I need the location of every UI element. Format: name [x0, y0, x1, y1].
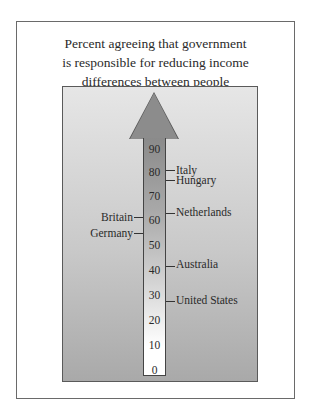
chart-title: Percent agreeing that government is resp… — [16, 34, 295, 91]
tick-0: 0 — [143, 364, 166, 376]
tick-60: 60 — [143, 214, 166, 226]
title-line-2: is responsible for reducing income — [16, 53, 295, 72]
marker-britain — [134, 217, 143, 218]
tick-90: 90 — [143, 143, 166, 155]
tick-80: 80 — [143, 166, 166, 178]
arrow-up-icon — [130, 93, 178, 139]
label-netherlands: Netherlands — [176, 206, 232, 218]
tick-40: 40 — [143, 264, 166, 276]
label-united-states: United States — [176, 294, 238, 306]
tick-30: 30 — [143, 289, 166, 301]
label-australia: Australia — [176, 258, 218, 270]
marker-united-states — [166, 301, 175, 302]
label-germany: Germany — [90, 227, 133, 239]
marker-italy — [166, 170, 175, 171]
tick-70: 70 — [143, 190, 166, 202]
label-britain: Britain — [101, 211, 133, 223]
marker-netherlands — [166, 213, 175, 214]
tick-50: 50 — [143, 239, 166, 251]
label-hungary: Hungary — [176, 174, 216, 186]
tick-10: 10 — [143, 339, 166, 351]
marker-hungary — [166, 180, 175, 181]
marker-germany — [134, 233, 143, 234]
marker-australia — [166, 266, 175, 267]
tick-20: 20 — [143, 314, 166, 326]
title-line-1: Percent agreeing that government — [16, 34, 295, 53]
